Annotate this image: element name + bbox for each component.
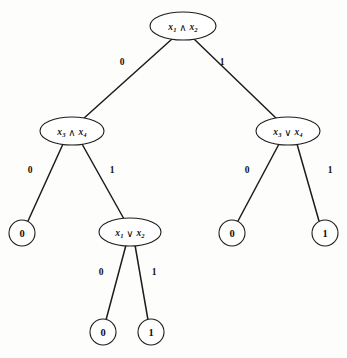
node-leaf-bottom-1[interactable]: 1 bbox=[138, 319, 164, 345]
edge-label-left-leaf0: 0 bbox=[28, 165, 33, 175]
edges-group bbox=[28, 39, 319, 320]
edge-right-to-leaf0 bbox=[238, 144, 279, 221]
decision-tree-canvas: 0 1 0 1 0 1 0 1 x1 ∧ x2 x3 ∧ x4 x3 ∨ x4 bbox=[0, 0, 347, 358]
node-root-label: x1 ∧ x2 bbox=[167, 21, 198, 33]
edge-label-root-left: 0 bbox=[120, 57, 125, 67]
node-leaf-right-0[interactable]: 0 bbox=[219, 220, 245, 246]
edge-label-left-mid: 1 bbox=[110, 165, 115, 175]
node-mid-internal[interactable]: x1 ∨ x2 bbox=[99, 218, 161, 246]
node-leaf-bottom-1-label: 1 bbox=[148, 327, 153, 338]
node-right-internal-label: x3 ∨ x4 bbox=[272, 126, 303, 138]
node-left-internal[interactable]: x3 ∧ x4 bbox=[40, 117, 104, 145]
edge-left-to-leaf0 bbox=[28, 144, 63, 221]
edge-root-to-left bbox=[83, 39, 172, 119]
node-leaf-right-0-label: 0 bbox=[229, 228, 234, 239]
edge-mid-to-leaf1 bbox=[135, 245, 148, 320]
node-leaf-right-1[interactable]: 1 bbox=[312, 220, 338, 246]
edge-label-right-leaf1: 1 bbox=[328, 165, 333, 175]
node-root[interactable]: x1 ∧ x2 bbox=[150, 12, 216, 40]
decision-tree-figure: 0 1 0 1 0 1 0 1 x1 ∧ x2 x3 ∧ x4 x3 ∨ x4 bbox=[0, 0, 347, 358]
node-leaf-left-0[interactable]: 0 bbox=[9, 220, 35, 246]
edge-labels-group: 0 1 0 1 0 1 0 1 bbox=[28, 57, 333, 277]
node-leaf-left-0-label: 0 bbox=[19, 228, 24, 239]
edge-root-to-right bbox=[194, 39, 277, 119]
node-mid-internal-label: x1 ∨ x2 bbox=[114, 227, 145, 239]
edge-right-to-leaf1 bbox=[297, 144, 319, 221]
node-leaf-bottom-0-label: 0 bbox=[100, 327, 105, 338]
edge-label-mid-leaf1: 1 bbox=[152, 267, 157, 277]
node-leaf-bottom-0[interactable]: 0 bbox=[90, 319, 116, 345]
edge-label-right-leaf0: 0 bbox=[245, 165, 250, 175]
node-left-internal-label: x3 ∧ x4 bbox=[56, 126, 87, 138]
edge-label-mid-leaf0: 0 bbox=[99, 267, 104, 277]
edge-left-to-mid bbox=[82, 144, 124, 219]
edge-mid-to-leaf0 bbox=[106, 245, 126, 320]
edge-label-root-right: 1 bbox=[220, 57, 225, 67]
nodes-group: x1 ∧ x2 x3 ∧ x4 x3 ∨ x4 x1 ∨ x2 0 0 bbox=[9, 12, 338, 345]
node-right-internal[interactable]: x3 ∨ x4 bbox=[256, 117, 320, 145]
node-leaf-right-1-label: 1 bbox=[322, 228, 327, 239]
